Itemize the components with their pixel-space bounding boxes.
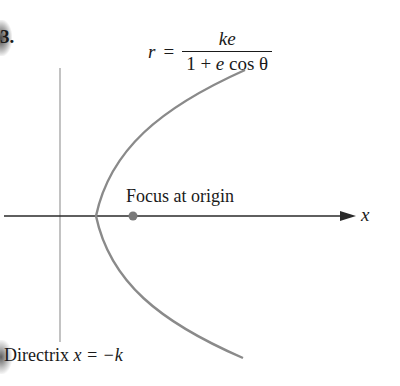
focus-label: Focus at origin [126, 186, 234, 207]
directrix-label: Directrix x = −k [4, 345, 123, 366]
parabola-curve [96, 70, 245, 358]
directrix-equation: x = −k [73, 345, 122, 365]
x-axis-arrow-icon [340, 211, 356, 221]
focus-point [129, 212, 138, 221]
x-axis-label: x [361, 204, 369, 226]
directrix-text: Directrix [4, 345, 73, 365]
